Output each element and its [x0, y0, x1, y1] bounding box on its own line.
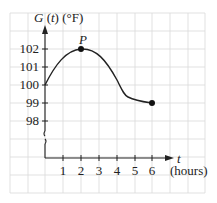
x-tick-label: 4 [114, 163, 121, 178]
y-tick-label: 98 [26, 113, 39, 128]
x-tick-label: 5 [132, 163, 139, 178]
y-tick-label: 99 [26, 95, 39, 110]
x-tick-label: 3 [96, 163, 103, 178]
chart-canvas: 1 2 3 4 5 6 102 101 100 99 98 G (t) (°F)… [0, 0, 217, 203]
x-tick-labels: 1 2 3 4 5 6 [60, 163, 156, 178]
temperature-curve [45, 49, 152, 103]
y-axis-label: G (t) (°F) [34, 10, 83, 25]
x-axis-arrow-icon [165, 155, 174, 161]
temperature-chart: 1 2 3 4 5 6 102 101 100 99 98 G (t) (°F)… [0, 0, 217, 203]
x-axis-unit-label: (hours) [170, 163, 208, 178]
y-axis-arrow-icon [42, 25, 48, 34]
point-p-label: P [78, 32, 87, 47]
x-tick-label: 1 [60, 163, 67, 178]
y-tick-label: 100 [20, 77, 40, 92]
endpoint-marker [149, 100, 155, 106]
x-tick-label: 2 [78, 163, 85, 178]
y-tick-labels: 102 101 100 99 98 [20, 41, 40, 128]
y-tick-label: 102 [20, 41, 40, 56]
y-tick-label: 101 [20, 59, 40, 74]
x-tick-label: 6 [149, 163, 156, 178]
